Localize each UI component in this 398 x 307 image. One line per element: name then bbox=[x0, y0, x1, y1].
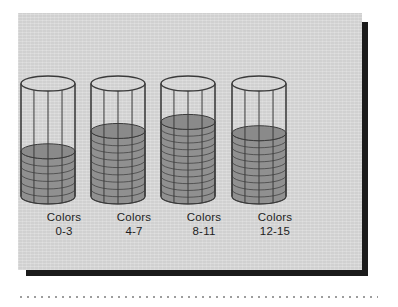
cylinder-3 bbox=[231, 75, 287, 205]
page-dotted-rule bbox=[20, 296, 378, 298]
cylinder-1 bbox=[90, 75, 146, 205]
cylinder-label-1-line1: Colors bbox=[117, 211, 151, 223]
cylinder-label-0-line1: Colors bbox=[47, 211, 81, 223]
artwork-panel: Colors 0-3 Colors 4-7 Colors 8-11 Colors… bbox=[18, 13, 362, 270]
cylinder-label-3: Colors 12-15 bbox=[230, 210, 320, 238]
cylinder-label-2-line1: Colors bbox=[187, 211, 221, 223]
cylinder-0 bbox=[20, 75, 76, 205]
cylinder-label-3-line2: 12-15 bbox=[230, 224, 320, 238]
figure-stage: Colors 0-3 Colors 4-7 Colors 8-11 Colors… bbox=[0, 0, 398, 307]
cylinder-label-3-line1: Colors bbox=[258, 211, 292, 223]
cylinder-2 bbox=[160, 75, 216, 205]
